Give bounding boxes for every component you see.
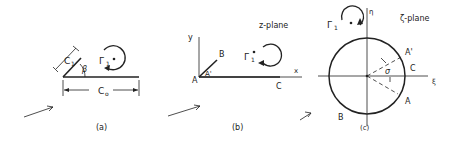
conformal-mapping-diagram: C 1 β Γ 1 C o (a) z-plane y x B A A' C Γ…: [0, 0, 459, 142]
zeta-plane-label: ζ-plane: [400, 14, 430, 23]
x-axis-label: x: [294, 67, 298, 75]
circulation-arrow-icon: [262, 44, 282, 66]
xi-axis-label: ξ: [432, 78, 436, 86]
sigma-indicator: [381, 58, 386, 63]
caption-c: (c): [360, 124, 370, 132]
point-c-label: C: [276, 82, 282, 91]
circulation-subscript: 1: [106, 60, 110, 67]
caption-a: (a): [96, 123, 107, 132]
y-axis-label: y: [188, 33, 193, 42]
main-chord-label: C: [98, 86, 104, 96]
point-b-label: B: [219, 50, 225, 59]
eta-axis-label: η: [369, 8, 373, 16]
vortex-dot: [253, 51, 256, 54]
arrowhead-icon: [133, 88, 138, 92]
arrowhead-icon: [64, 88, 69, 92]
main-chord-subscript: o: [105, 90, 109, 97]
panel-b: [168, 37, 302, 116]
point-a-prime-label: A': [405, 48, 413, 57]
flap-chord-subscript: 1: [71, 60, 75, 67]
radius-a: [367, 76, 398, 94]
freestream-arrow-icon: [300, 113, 311, 120]
point-a-prime-label: A': [205, 70, 212, 78]
circulation-subscript: 1: [251, 56, 255, 63]
vortex-dot: [350, 22, 353, 25]
caption-b: (b): [232, 123, 243, 132]
panel-c: [300, 6, 428, 126]
beta-label: β: [81, 65, 87, 74]
z-plane-label: z-plane: [259, 21, 288, 30]
circulation-label: Γ: [244, 52, 249, 62]
point-b-label: B: [338, 113, 344, 122]
freestream-arrow-icon: [24, 107, 53, 117]
sigma-label: σ: [385, 67, 391, 76]
panel-a: [24, 46, 139, 117]
circulation-subscript: 1: [334, 24, 338, 31]
point-c-label: C: [410, 64, 416, 73]
arrowhead-icon: [258, 60, 264, 66]
circulation-label: Γ: [327, 20, 332, 30]
point-a-label: A: [405, 97, 411, 106]
circulation-label: Γ: [99, 56, 104, 66]
point-a-label: A: [192, 76, 198, 85]
origin-dot: [366, 75, 369, 78]
flap-chord-label: C: [64, 56, 70, 66]
freestream-arrow-icon: [168, 106, 200, 116]
vortex-dot: [113, 58, 116, 61]
